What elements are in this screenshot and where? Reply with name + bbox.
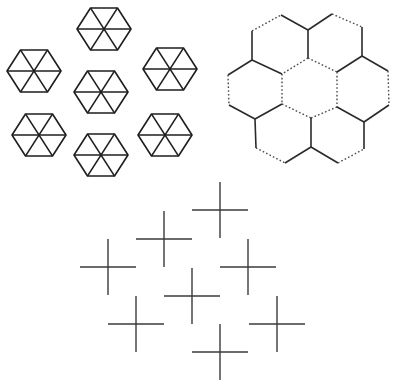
triangulated-hexagon <box>74 134 128 176</box>
honeycomb-dotted-edge <box>338 149 364 163</box>
honeycomb-solid-edge <box>337 107 364 122</box>
figure-canvas <box>0 0 399 391</box>
honeycomb-solid-edge <box>281 15 308 30</box>
triangulated-hexagon <box>74 71 128 113</box>
honeycomb-figure <box>228 14 389 163</box>
honeycomb-solid-edge <box>229 105 255 119</box>
honeycomb-solid-edge <box>337 56 362 72</box>
triangulated-hexagon <box>143 48 197 90</box>
plus-cross <box>220 239 276 295</box>
honeycomb-dotted-edge <box>332 14 362 27</box>
triangulated-hexagon-cluster <box>7 8 197 176</box>
honeycomb-dotted-edge <box>252 15 281 31</box>
plus-cross <box>192 324 248 380</box>
honeycomb-dotted-edge <box>282 58 308 74</box>
honeycomb-dotted-edge <box>311 107 337 118</box>
honeycomb-solid-edge <box>255 104 282 119</box>
honeycomb-solid-edge <box>362 56 388 71</box>
honeycomb-dotted-edge <box>282 104 311 118</box>
cross-cluster <box>80 182 305 380</box>
honeycomb-solid-edge <box>285 147 311 163</box>
honeycomb-dotted-edge <box>308 58 337 72</box>
honeycomb-solid-edge <box>255 119 256 148</box>
honeycomb-solid-edge <box>308 14 332 30</box>
plus-cross <box>249 296 305 352</box>
triangulated-hexagon <box>138 114 192 156</box>
plus-cross <box>192 182 248 238</box>
honeycomb-solid-edge <box>364 105 389 122</box>
plus-cross <box>80 239 136 295</box>
plus-cross <box>164 268 220 324</box>
plus-cross <box>108 296 164 352</box>
triangulated-hexagon <box>77 8 131 50</box>
diagram-svg <box>0 0 399 391</box>
honeycomb-dotted-edge <box>388 71 389 105</box>
triangulated-hexagon <box>12 114 66 156</box>
honeycomb-solid-edge <box>228 60 252 75</box>
triangulated-hexagon <box>7 50 61 92</box>
honeycomb-solid-edge <box>311 147 338 163</box>
honeycomb-dotted-edge <box>228 75 229 105</box>
honeycomb-solid-edge <box>252 60 282 74</box>
plus-cross <box>136 211 192 267</box>
honeycomb-dotted-edge <box>256 148 285 163</box>
